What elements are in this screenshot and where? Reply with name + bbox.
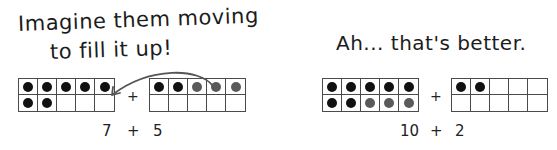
equation-after-a: 10: [400, 122, 419, 140]
move-arrow-icon: [0, 0, 557, 150]
equation-after-b: 2: [455, 122, 465, 140]
equation-after-op: +: [430, 122, 443, 140]
equation-before-a: 7: [102, 122, 112, 140]
equation-before-op: +: [127, 122, 140, 140]
equation-before-b: 5: [153, 122, 163, 140]
